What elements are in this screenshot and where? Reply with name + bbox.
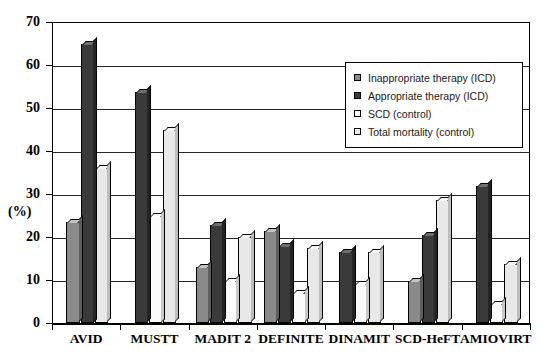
y-tick-label: 70: [10, 15, 40, 29]
x-tick-mark: [393, 323, 394, 330]
bar: [339, 252, 352, 323]
bar-group: [190, 23, 258, 323]
x-tick-mark: [120, 323, 121, 330]
bar-face: [423, 236, 434, 322]
bar-face: [150, 217, 161, 323]
bar-face: [96, 169, 107, 322]
bar: [135, 92, 148, 323]
bar-face: [409, 282, 420, 322]
bar-group: [53, 23, 121, 323]
legend-label: Inappropriate therapy (ICD): [368, 72, 496, 84]
y-tick-label: 0: [10, 316, 40, 330]
x-tick-mark: [257, 323, 258, 330]
bar: [490, 304, 503, 323]
bar-face: [437, 201, 448, 322]
bar-face: [369, 253, 380, 322]
bar: [264, 231, 277, 323]
bar: [408, 281, 421, 323]
bar: [504, 264, 517, 323]
bar-face: [197, 268, 208, 322]
bar-group: [258, 23, 326, 323]
x-tick-mark: [462, 323, 463, 330]
legend-swatch-inappropriate: [354, 74, 361, 81]
bar-face: [265, 232, 276, 322]
x-category-label-mustt: MUSTT: [130, 331, 178, 347]
y-axis-title: (%): [8, 204, 31, 220]
bar-face: [293, 294, 304, 322]
bar-face: [477, 187, 488, 322]
bar: [196, 267, 209, 323]
legend-item: Inappropriate therapy (ICD): [352, 69, 516, 86]
legend-swatch-total-mortality: [354, 128, 361, 135]
x-category-label-avid: AVID: [70, 331, 103, 347]
bar-face: [225, 282, 236, 322]
y-tick-label: 30: [10, 187, 40, 201]
x-category-label-scd-heft: SCD-HeFT: [395, 331, 460, 347]
bar-face: [136, 93, 147, 322]
x-category-label-madit-2: MADIT 2: [195, 331, 251, 347]
y-tick-label: 50: [10, 101, 40, 115]
bar-face: [82, 45, 93, 323]
x-tick-mark: [325, 323, 326, 330]
bar: [292, 293, 305, 323]
legend-item: Appropriate therapy (ICD): [352, 87, 516, 104]
bar-face: [239, 238, 250, 322]
bar: [238, 237, 251, 323]
y-tick-label: 40: [10, 144, 40, 158]
x-category-label-amiovirt: AMIOVIRT: [460, 331, 532, 347]
legend: Inappropriate therapy (ICD)Appropriate t…: [345, 62, 523, 148]
bar-face: [308, 249, 319, 322]
bar-face: [211, 226, 222, 322]
legend-swatch-appropriate: [354, 92, 361, 99]
bar: [278, 246, 291, 323]
x-tick-mark: [530, 323, 531, 330]
bar-face: [340, 253, 351, 322]
bar: [436, 200, 449, 323]
bar-face: [505, 265, 516, 322]
bar-face: [491, 305, 502, 322]
x-tick-mark: [189, 323, 190, 330]
y-tick-label: 60: [10, 58, 40, 72]
legend-item: SCD (control): [352, 105, 516, 122]
bar-face: [164, 131, 175, 322]
legend-swatch-scd: [354, 110, 361, 117]
legend-item: Total mortality (control): [352, 123, 516, 140]
x-axis-line: [52, 323, 530, 325]
bar: [476, 186, 489, 323]
y-tick-label: 20: [10, 230, 40, 244]
legend-label: Total mortality (control): [368, 126, 474, 138]
bar-face: [279, 247, 290, 322]
x-tick-mark: [52, 323, 53, 330]
legend-label: SCD (control): [368, 108, 432, 120]
bar-chart: (%) 010203040506070 AVIDMUSTTMADIT 2DEFI…: [0, 0, 540, 360]
legend-label: Appropriate therapy (ICD): [368, 90, 488, 102]
bar-face: [355, 285, 366, 322]
x-category-label-definite: DEFINITE: [258, 331, 323, 347]
x-category-label-dinamit: DINAMIT: [329, 331, 391, 347]
bar-face: [67, 223, 78, 322]
bar-group: [121, 23, 189, 323]
bar: [66, 222, 79, 323]
y-tick-label: 10: [10, 273, 40, 287]
bar: [224, 281, 237, 323]
